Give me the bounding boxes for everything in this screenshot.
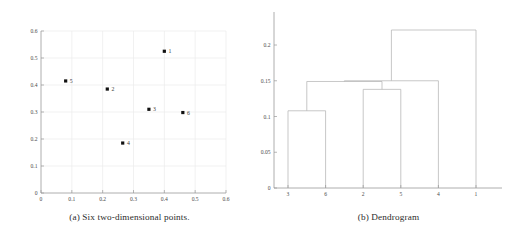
data-point-label: 5 xyxy=(70,78,73,84)
data-point-marker xyxy=(181,111,184,114)
panel-dendrogram: 00.050.10.150.2 362541 (b) Dendrogram xyxy=(259,0,518,245)
y-tick-label: 0 xyxy=(35,190,38,196)
leaf-label: 5 xyxy=(399,191,402,197)
dendrogram-plot: 00.050.10.150.2 362541 xyxy=(259,0,518,212)
leaf-label: 1 xyxy=(475,191,478,197)
dendrogram-leaf-labels: 362541 xyxy=(287,185,478,197)
y-tick-label: 0.3 xyxy=(31,109,38,115)
y-tick-label: 0.5 xyxy=(31,55,38,61)
dendrogram-link xyxy=(363,89,401,188)
dendrogram-ticks: 00.050.10.150.2 xyxy=(261,42,277,191)
scatter-plot: 00.10.20.30.40.50.600.10.20.30.40.50.6 1… xyxy=(0,0,259,212)
data-point-label: 4 xyxy=(127,140,130,146)
data-point-marker xyxy=(147,108,150,111)
dendrogram-link xyxy=(307,81,382,110)
y-tick-label: 0.1 xyxy=(31,163,38,169)
figure-container: 00.10.20.30.40.50.600.10.20.30.40.50.6 1… xyxy=(0,0,518,245)
data-point-marker xyxy=(121,141,124,144)
y-tick-label: 0.6 xyxy=(31,28,38,34)
y-tick-label: 0 xyxy=(268,185,271,191)
panel-scatter: 00.10.20.30.40.50.600.10.20.30.40.50.6 1… xyxy=(0,0,259,245)
y-tick-label: 0.2 xyxy=(31,136,38,142)
x-tick-label: 0.4 xyxy=(161,196,168,202)
leaf-label: 6 xyxy=(324,191,327,197)
x-tick-label: 0.6 xyxy=(223,196,230,202)
y-tick-label: 0.2 xyxy=(264,42,271,48)
leaf-label: 4 xyxy=(437,191,440,197)
x-tick-label: 0 xyxy=(40,196,43,202)
x-tick-label: 0.5 xyxy=(192,196,199,202)
data-point-label: 6 xyxy=(187,110,190,116)
data-point-label: 1 xyxy=(169,48,172,54)
scatter-ticks: 00.10.20.30.40.50.600.10.20.30.40.50.6 xyxy=(31,28,230,202)
scatter-points: 123456 xyxy=(64,48,190,146)
y-tick-label: 0.4 xyxy=(31,82,38,88)
leaf-label: 2 xyxy=(362,191,365,197)
data-point-marker xyxy=(106,87,109,90)
dendrogram-links xyxy=(288,30,476,188)
data-point-label: 2 xyxy=(111,86,114,92)
x-tick-label: 0.3 xyxy=(130,196,137,202)
x-tick-label: 0.1 xyxy=(68,196,75,202)
y-tick-label: 0.1 xyxy=(264,114,271,120)
caption-panel-b: (b) Dendrogram xyxy=(259,212,518,222)
dendrogram-link xyxy=(344,81,438,188)
scatter-gridlines xyxy=(41,31,226,193)
y-tick-label: 0.05 xyxy=(261,149,271,155)
data-point-label: 3 xyxy=(153,106,156,112)
caption-panel-a: (a) Six two-dimensional points. xyxy=(0,212,259,222)
data-point-marker xyxy=(64,79,67,82)
dendrogram-link xyxy=(288,111,326,188)
y-tick-label: 0.15 xyxy=(261,78,271,84)
data-point-marker xyxy=(163,50,166,53)
x-tick-label: 0.2 xyxy=(99,196,106,202)
dendrogram-link xyxy=(391,30,476,188)
dendrogram-axes xyxy=(274,12,502,188)
leaf-label: 3 xyxy=(287,191,290,197)
